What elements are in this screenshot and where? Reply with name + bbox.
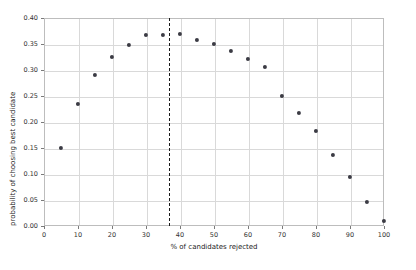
y-tick-label: 0.30 — [6, 66, 38, 74]
x-gridline — [215, 19, 216, 225]
optimal-threshold-line — [169, 18, 170, 226]
x-tick — [78, 226, 79, 229]
y-gridline — [45, 97, 383, 98]
x-tick-label: 30 — [142, 231, 150, 239]
x-tick-label: 80 — [312, 231, 320, 239]
y-tick-label: 0.10 — [6, 170, 38, 178]
x-axis-label: % of candidates rejected — [44, 243, 384, 251]
x-gridline — [317, 19, 318, 225]
x-tick-label: 100 — [378, 231, 390, 239]
y-axis-label: probability of choosing best candidate — [9, 92, 17, 226]
y-gridline — [45, 201, 383, 202]
x-gridline — [249, 19, 250, 225]
y-tick-label: 0.35 — [6, 40, 38, 48]
y-tick — [41, 226, 44, 227]
x-tick — [146, 226, 147, 229]
x-tick-label: 60 — [244, 231, 252, 239]
x-tick — [248, 226, 249, 229]
y-gridline — [45, 175, 383, 176]
x-gridline — [113, 19, 114, 225]
x-gridline — [283, 19, 284, 225]
x-tick-label: 70 — [278, 231, 286, 239]
chart-figure: % of candidates rejected probability of … — [0, 0, 416, 270]
x-gridline — [351, 19, 352, 225]
x-tick-label: 50 — [210, 231, 218, 239]
x-gridline — [181, 19, 182, 225]
y-tick — [41, 122, 44, 123]
y-tick-label: 0.40 — [6, 14, 38, 22]
x-tick — [180, 226, 181, 229]
x-tick-label: 10 — [74, 231, 82, 239]
x-tick — [214, 226, 215, 229]
y-gridline — [45, 149, 383, 150]
y-tick — [41, 148, 44, 149]
y-tick-label: 0.20 — [6, 118, 38, 126]
x-tick-label: 90 — [346, 231, 354, 239]
y-gridline — [45, 71, 383, 72]
y-tick — [41, 174, 44, 175]
y-tick-label: 0.15 — [6, 144, 38, 152]
y-tick — [41, 18, 44, 19]
x-tick — [316, 226, 317, 229]
y-tick — [41, 96, 44, 97]
data-point — [382, 219, 386, 223]
x-tick — [44, 226, 45, 229]
y-tick — [41, 200, 44, 201]
y-gridline — [45, 123, 383, 124]
x-tick — [282, 226, 283, 229]
y-tick-label: 0.25 — [6, 92, 38, 100]
x-tick — [350, 226, 351, 229]
plot-area — [44, 18, 384, 226]
x-gridline — [79, 19, 80, 225]
y-tick-label: 0.05 — [6, 196, 38, 204]
x-gridline — [147, 19, 148, 225]
y-tick-label: 0.00 — [6, 222, 38, 230]
y-tick — [41, 70, 44, 71]
y-tick — [41, 44, 44, 45]
x-tick-label: 0 — [42, 231, 46, 239]
x-tick — [384, 226, 385, 229]
x-tick — [112, 226, 113, 229]
x-tick-label: 40 — [176, 231, 184, 239]
x-tick-label: 20 — [108, 231, 116, 239]
